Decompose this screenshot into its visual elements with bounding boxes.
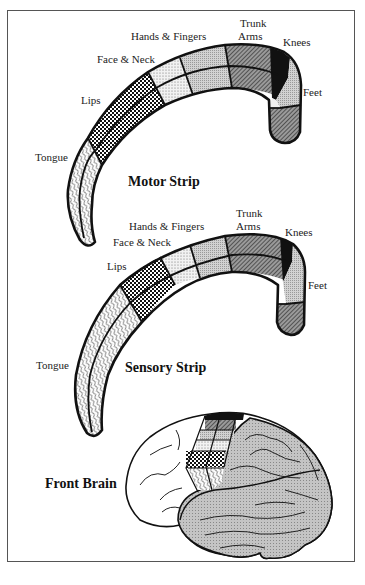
motor-label-knees: Knees [283,36,311,48]
motor-label-arms: Arms [238,30,262,42]
sensory-label-feet: Feet [308,279,327,291]
sensory-label-arms: Arms [236,220,260,232]
motor-label-lips: Lips [81,94,101,106]
sensory-label-face-neck: Face & Neck [113,236,172,248]
motor-label-hands-fingers: Hands & Fingers [131,30,206,42]
sensory-strip-title: Sensory Strip [125,360,207,375]
motor-label-feet: Feet [303,86,322,98]
sensory-label-lips: Lips [107,260,127,272]
sensory-label-knees: Knees [285,226,313,238]
motor-strip-title: Motor Strip [128,174,200,189]
sensory-label-trunk: Trunk [236,207,263,219]
sensory-label-tongue: Tongue [36,359,69,371]
sensory-label-hands-fingers: Hands & Fingers [129,220,204,232]
motor-label-face-neck: Face & Neck [97,53,156,65]
motor-strip: Trunk Arms Knees Feet Hands & Fingers Fa… [35,17,322,246]
homunculus-diagram: Trunk Arms Knees Feet Hands & Fingers Fa… [0,0,365,585]
motor-label-trunk: Trunk [240,17,267,29]
motor-label-tongue: Tongue [35,151,68,163]
front-brain-title: Front Brain [45,476,117,491]
